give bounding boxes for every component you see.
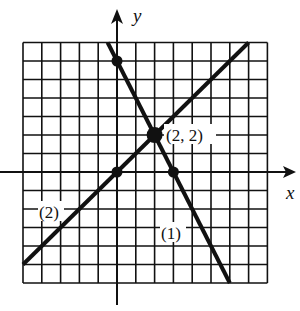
line-1-label: (1) (161, 224, 181, 243)
point-marker (147, 127, 163, 143)
grid (23, 43, 267, 284)
intersection-label: (2, 2) (166, 126, 203, 145)
x-axis (0, 166, 296, 178)
point-marker (112, 56, 123, 67)
x-axis-label: x (285, 182, 295, 203)
point-marker (112, 167, 123, 178)
line-2-label: (2) (39, 203, 59, 222)
graph: y x (2, 2) (2) (1) (0, 0, 300, 311)
point-marker (168, 167, 179, 178)
y-axis-label: y (131, 5, 142, 26)
